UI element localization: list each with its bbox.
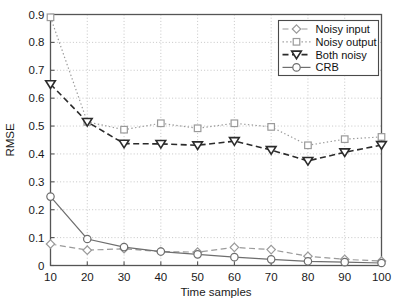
y-tick-label: 0.5 — [29, 120, 45, 132]
data-point-marker — [341, 258, 348, 265]
data-point-marker — [84, 235, 91, 242]
data-point-marker — [121, 126, 128, 133]
data-point-marker — [231, 253, 238, 260]
data-point-marker — [158, 120, 165, 127]
x-tick-label: 80 — [302, 271, 315, 283]
data-point-marker — [304, 258, 311, 265]
chart-legend: Noisy inputNoisy outputBoth noisyCRB — [279, 21, 379, 76]
y-tick-label: 0.6 — [29, 92, 45, 104]
x-axis-title: Time samples — [180, 286, 251, 298]
x-tick-label: 40 — [154, 271, 167, 283]
x-tick-label: 90 — [338, 271, 351, 283]
y-tick-label: 0.3 — [29, 176, 45, 188]
x-tick-label: 60 — [228, 271, 241, 283]
data-point-marker — [378, 134, 385, 141]
data-point-marker — [293, 64, 300, 71]
legend-label-noisy-output: Noisy output — [316, 36, 377, 48]
x-tick-label: 10 — [44, 271, 57, 283]
y-tick-label: 0.7 — [29, 64, 45, 76]
data-point-marker — [267, 256, 274, 263]
legend-label-both-noisy: Both noisy — [316, 49, 368, 61]
y-tick-label: 0.4 — [29, 148, 46, 160]
data-point-marker — [231, 120, 238, 127]
y-tick-label: 0.1 — [29, 232, 45, 244]
data-point-marker — [378, 259, 385, 266]
x-tick-label: 70 — [265, 271, 278, 283]
legend-label-noisy-input: Noisy input — [316, 23, 370, 35]
data-point-marker — [341, 136, 348, 143]
x-tick-label: 20 — [81, 271, 94, 283]
y-axis-title: RMSE — [4, 123, 16, 157]
data-point-marker — [293, 39, 300, 46]
data-point-marker — [120, 243, 127, 250]
data-point-marker — [268, 124, 275, 131]
y-tick-label: 0.2 — [29, 204, 45, 216]
data-point-marker — [194, 251, 201, 258]
y-tick-label: 0.9 — [29, 9, 45, 21]
x-tick-label: 30 — [118, 271, 131, 283]
data-point-marker — [157, 248, 164, 255]
y-tick-label: 0.8 — [29, 36, 45, 48]
legend-label-crb: CRB — [316, 61, 339, 73]
data-point-marker — [194, 125, 201, 132]
x-tick-label: 100 — [372, 271, 391, 283]
data-point-marker — [47, 193, 54, 200]
data-point-marker — [47, 14, 54, 21]
chart-figure: 00.10.20.30.40.50.60.70.80.9 10203040506… — [0, 0, 401, 301]
data-point-marker — [305, 142, 312, 149]
rmse-line-chart: 00.10.20.30.40.50.60.70.80.9 10203040506… — [0, 0, 401, 301]
x-tick-label: 50 — [191, 271, 204, 283]
